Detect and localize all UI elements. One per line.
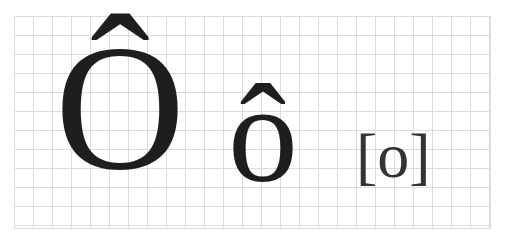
lowercase-o-circumflex: ô <box>228 64 298 204</box>
ipa-transcription: [o] <box>356 124 431 188</box>
uppercase-o-circumflex: Ô <box>55 18 185 198</box>
